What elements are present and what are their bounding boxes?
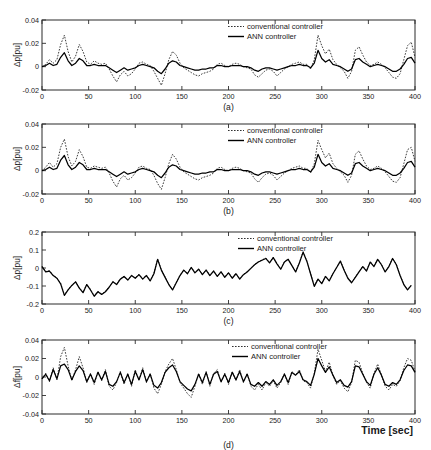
legend-label-ann-controller: ANN controller	[247, 136, 297, 145]
y-tick-label-d-2: 0	[35, 373, 39, 382]
y-tick-label-d-1: 0.02	[25, 354, 39, 363]
x-tick-label-c-4: 200	[223, 306, 235, 315]
x-tick-label-a-7: 350	[362, 92, 374, 101]
x-tick-label-b-0: 0	[40, 196, 44, 205]
x-tick-label-c-8: 400	[409, 306, 421, 315]
series-ann-controller-c	[42, 252, 411, 296]
x-tick-label-d-5: 250	[269, 416, 281, 425]
legend-label-conventional-controller: conventional controller	[257, 234, 333, 243]
y-tick-label-a-3: -0.02	[23, 86, 39, 95]
y-axis-label-a: Δp[pu]	[12, 43, 22, 67]
legend-label-ann-controller: ANN controller	[247, 32, 297, 41]
y-axis-label-c: Δp[pu]	[12, 256, 22, 280]
subplot-c-canvas: 0.20.10-0.1-0.2050100150200250300350400Δ…	[0, 226, 431, 334]
legend-label-ann-controller: ANN controller	[251, 352, 301, 361]
x-tick-label-a-5: 250	[269, 92, 281, 101]
subplot-caption-a: (a)	[223, 102, 234, 112]
x-tick-label-b-1: 50	[85, 196, 93, 205]
subplot-a: 0.040.020-0.02050100150200250300350400Δp…	[0, 14, 431, 118]
x-tick-label-a-0: 0	[40, 92, 44, 101]
series-conventional-controller-b	[42, 139, 415, 189]
x-tick-label-d-0: 0	[40, 416, 44, 425]
y-tick-label-a-1: 0.02	[25, 39, 39, 48]
plot-frame	[42, 340, 415, 414]
plot-frame	[42, 20, 415, 90]
subplot-a-canvas: 0.040.020-0.02050100150200250300350400Δp…	[0, 14, 431, 118]
y-tick-label-c-0: 0.2	[29, 228, 39, 237]
y-tick-label-a-0: 0.04	[25, 16, 39, 25]
x-tick-label-a-2: 100	[129, 92, 141, 101]
series-ann-controller-b	[42, 154, 415, 177]
x-tick-label-b-4: 200	[223, 196, 235, 205]
figure-container: 0.040.020-0.02050100150200250300350400Δp…	[0, 0, 431, 450]
series-ann-controller-a	[42, 50, 415, 73]
y-tick-label-c-4: -0.2	[27, 300, 39, 309]
subplot-caption-c: (c)	[223, 316, 233, 326]
x-tick-label-a-3: 150	[176, 92, 188, 101]
y-tick-label-c-3: -0.1	[27, 282, 39, 291]
y-axis-label-d: Δf[pu]	[12, 366, 22, 388]
y-tick-label-d-3: -0.02	[23, 391, 39, 400]
y-tick-label-b-1: 0.02	[25, 143, 39, 152]
plot-frame	[42, 232, 415, 304]
x-tick-label-c-1: 50	[85, 306, 93, 315]
x-tick-label-c-6: 300	[316, 306, 328, 315]
legend-label-ann-controller: ANN controller	[257, 244, 307, 253]
x-tick-label-b-6: 300	[316, 196, 328, 205]
x-tick-label-c-7: 350	[362, 306, 374, 315]
subplot-b-canvas: 0.040.020-0.02050100150200250300350400Δp…	[0, 118, 431, 222]
legend-label-conventional-controller: conventional controller	[247, 22, 323, 31]
y-tick-label-d-0: 0.04	[25, 336, 39, 345]
x-tick-label-b-8: 400	[409, 196, 421, 205]
subplot-caption-b: (b)	[223, 206, 234, 216]
subplot-c: 0.20.10-0.1-0.2050100150200250300350400Δ…	[0, 226, 431, 334]
subplot-b: 0.040.020-0.02050100150200250300350400Δp…	[0, 118, 431, 222]
y-axis-label-b: Δp[pu]	[12, 147, 22, 171]
x-tick-label-d-3: 150	[176, 416, 188, 425]
series-conventional-controller-a	[42, 35, 415, 85]
x-tick-label-a-8: 400	[409, 92, 421, 101]
x-tick-label-d-1: 50	[85, 416, 93, 425]
y-tick-label-c-2: 0	[35, 264, 39, 273]
x-tick-label-d-4: 200	[223, 416, 235, 425]
x-tick-label-c-3: 150	[176, 306, 188, 315]
x-tick-label-c-0: 0	[40, 306, 44, 315]
subplot-d: 0.040.020-0.02-0.04050100150200250300350…	[0, 334, 431, 450]
x-tick-label-d-2: 100	[129, 416, 141, 425]
legend-label-conventional-controller: conventional controller	[247, 126, 323, 135]
x-tick-label-c-2: 100	[129, 306, 141, 315]
x-tick-label-c-5: 250	[269, 306, 281, 315]
x-tick-label-b-7: 350	[362, 196, 374, 205]
x-axis-title: Time [sec]	[361, 424, 413, 436]
y-tick-label-b-2: 0	[35, 166, 39, 175]
y-tick-label-a-2: 0	[35, 62, 39, 71]
x-tick-label-a-6: 300	[316, 92, 328, 101]
y-tick-label-d-4: -0.04	[23, 410, 39, 419]
x-tick-label-a-1: 50	[85, 92, 93, 101]
y-tick-label-b-0: 0.04	[25, 120, 39, 129]
legend-label-conventional-controller: conventional controller	[251, 342, 327, 351]
y-tick-label-b-3: -0.02	[23, 190, 39, 199]
x-tick-label-b-3: 150	[176, 196, 188, 205]
plot-frame	[42, 124, 415, 194]
subplot-d-canvas: 0.040.020-0.02-0.04050100150200250300350…	[0, 334, 431, 450]
y-tick-label-c-1: 0.1	[29, 246, 39, 255]
x-tick-label-a-4: 200	[223, 92, 235, 101]
x-tick-label-b-2: 100	[129, 196, 141, 205]
series-conventional-controller-c	[42, 252, 411, 296]
subplot-caption-d: (d)	[223, 440, 234, 450]
x-tick-label-b-5: 250	[269, 196, 281, 205]
x-tick-label-d-6: 300	[316, 416, 328, 425]
